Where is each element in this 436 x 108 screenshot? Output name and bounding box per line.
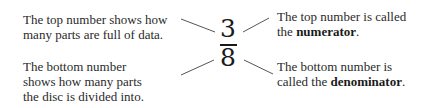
text: . [356,24,359,39]
text: . [402,74,405,89]
annotation-text: many parts are full of data. [23,27,167,42]
annotation-text: the numerator. [277,24,406,39]
numerator: 3 [219,14,237,43]
annotation-text: The top number shows how [23,12,167,27]
leader-line-bottom-right [244,60,273,74]
annotation-text: The bottom number [23,59,144,74]
leader-line-top-right [243,18,269,32]
annotation-text: the disc is divided into. [23,89,144,104]
annotation-text: The bottom number is [277,59,405,74]
leader-line-bottom-left [181,60,214,75]
denominator: 8 [219,43,237,72]
annotation-text: shows how many parts [23,74,144,89]
annotation-text: The top number is called [277,9,406,24]
annotation-top-left: The top number shows how many parts are … [23,12,167,42]
term-denominator: denominator [330,74,402,89]
term-numerator: numerator [296,24,356,39]
annotation-text: called the denominator. [277,74,405,89]
leader-line-top-left [181,19,215,32]
annotation-bottom-right: The bottom number is called the denomina… [277,59,405,89]
annotation-bottom-left: The bottom number shows how many parts t… [23,59,144,104]
text: called the [277,74,330,89]
text: the [277,24,296,39]
annotation-top-right: The top number is called the numerator. [277,9,406,39]
